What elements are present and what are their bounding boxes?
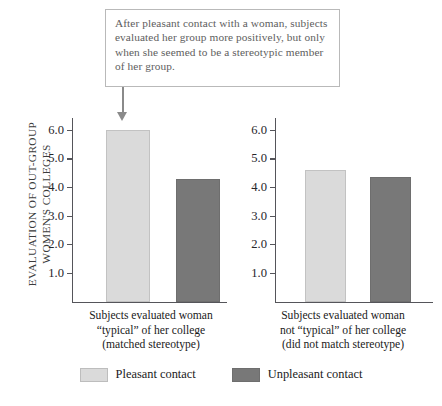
annotation-arrow-shaft bbox=[122, 87, 124, 114]
y-tick-1 bbox=[67, 273, 73, 274]
y-tick-2 bbox=[67, 244, 73, 245]
caption-line-2: “typical” of her college bbox=[48, 324, 254, 339]
annotation-text: After pleasant contact with a woman, sub… bbox=[115, 16, 330, 73]
x-axis-baseline bbox=[72, 302, 227, 303]
y-tick-4 bbox=[270, 187, 276, 188]
bar-matched-pleasant bbox=[106, 130, 150, 302]
y-tick-label-3: 3.0 bbox=[48, 208, 64, 223]
y-tick-3 bbox=[270, 216, 276, 217]
y-tick-label-4: 4.0 bbox=[251, 179, 267, 194]
category-caption-not-matched: Subjects evaluated woman not “typical” o… bbox=[240, 309, 442, 353]
y-tick-1 bbox=[270, 273, 276, 274]
x-axis-baseline bbox=[275, 302, 433, 303]
panel-matched-stereotype: 6.0 5.0 4.0 3.0 2.0 1.0 bbox=[72, 118, 232, 303]
y-tick-6 bbox=[67, 130, 73, 131]
y-tick-label-6: 6.0 bbox=[48, 122, 64, 137]
legend-swatch-pleasant bbox=[80, 368, 108, 382]
legend-item-unpleasant: Unpleasant contact bbox=[232, 367, 363, 382]
legend-label-unpleasant: Unpleasant contact bbox=[268, 367, 363, 382]
y-tick-label-6: 6.0 bbox=[251, 122, 267, 137]
panel-not-matched-stereotype: 6.0 5.0 4.0 3.0 2.0 1.0 bbox=[275, 118, 435, 303]
caption-line-3: (did not match stereotype) bbox=[240, 338, 442, 353]
legend-swatch-unpleasant bbox=[232, 368, 260, 382]
y-tick-label-2: 2.0 bbox=[251, 237, 267, 252]
y-axis-title-line1: EVALUATION OF OUT-GROUP bbox=[25, 99, 39, 309]
y-axis-spine bbox=[72, 118, 73, 303]
y-tick-5 bbox=[270, 158, 276, 159]
legend: Pleasant contact Unpleasant contact bbox=[0, 367, 442, 382]
y-tick-2 bbox=[270, 244, 276, 245]
y-tick-label-5: 5.0 bbox=[251, 151, 267, 166]
caption-line-2: not “typical” of her college bbox=[240, 324, 442, 339]
caption-line-3: (matched stereotype) bbox=[48, 338, 254, 353]
category-caption-matched: Subjects evaluated woman “typical” of he… bbox=[48, 309, 254, 353]
y-tick-label-1: 1.0 bbox=[48, 265, 64, 280]
y-tick-label-4: 4.0 bbox=[48, 179, 64, 194]
annotation-callout: After pleasant contact with a woman, sub… bbox=[105, 9, 340, 87]
bar-matched-unpleasant bbox=[176, 179, 220, 302]
caption-line-1: Subjects evaluated woman bbox=[240, 309, 442, 324]
bar-not-matched-unpleasant bbox=[370, 177, 411, 301]
chart-figure: After pleasant contact with a woman, sub… bbox=[0, 0, 442, 406]
y-tick-6 bbox=[270, 130, 276, 131]
y-axis-spine bbox=[275, 118, 276, 303]
caption-line-1: Subjects evaluated woman bbox=[48, 309, 254, 324]
y-tick-label-1: 1.0 bbox=[251, 265, 267, 280]
bar-not-matched-pleasant bbox=[305, 170, 346, 302]
y-tick-3 bbox=[67, 216, 73, 217]
y-tick-label-3: 3.0 bbox=[251, 208, 267, 223]
y-tick-4 bbox=[67, 187, 73, 188]
legend-item-pleasant: Pleasant contact bbox=[80, 367, 196, 382]
legend-label-pleasant: Pleasant contact bbox=[116, 367, 196, 382]
y-tick-label-2: 2.0 bbox=[48, 237, 64, 252]
y-tick-label-5: 5.0 bbox=[48, 151, 64, 166]
y-tick-5 bbox=[67, 158, 73, 159]
